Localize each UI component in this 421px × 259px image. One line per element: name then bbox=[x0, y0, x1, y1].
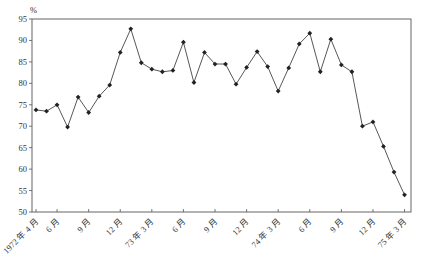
data-point-marker bbox=[402, 192, 407, 197]
data-point-marker bbox=[350, 69, 355, 74]
x-tick-label: 12 月 bbox=[104, 216, 125, 237]
x-tick-label: 73 年 3 月 bbox=[123, 216, 156, 249]
x-tick-label: 75 年 3 月 bbox=[376, 216, 409, 249]
data-point-marker bbox=[34, 108, 39, 113]
x-tick-label: 9 月 bbox=[75, 216, 93, 234]
data-point-marker bbox=[360, 124, 365, 129]
data-series bbox=[34, 26, 407, 197]
line-chart: 50556065707580859095 1972 年 4 月6 月9 月12 … bbox=[0, 0, 421, 259]
data-point-marker bbox=[371, 120, 376, 125]
data-point-marker bbox=[234, 82, 239, 87]
series-line bbox=[36, 29, 405, 195]
data-point-marker bbox=[76, 95, 81, 100]
y-tick-label: 50 bbox=[19, 207, 28, 217]
data-point-marker bbox=[328, 37, 333, 42]
x-tick-label: 74 年 3 月 bbox=[249, 216, 282, 249]
x-tick-label: 6 月 bbox=[296, 216, 314, 234]
data-point-marker bbox=[170, 68, 175, 73]
data-point-marker bbox=[149, 67, 154, 72]
y-tick-label: 90 bbox=[19, 35, 28, 45]
data-point-marker bbox=[339, 62, 344, 67]
y-tick-label: 85 bbox=[19, 57, 28, 67]
x-tick-label: 9 月 bbox=[201, 216, 219, 234]
data-point-marker bbox=[139, 60, 144, 65]
data-point-marker bbox=[160, 69, 165, 74]
y-unit-label: % bbox=[30, 5, 37, 15]
y-tick-label: 60 bbox=[19, 164, 28, 174]
data-point-marker bbox=[392, 170, 397, 175]
data-point-marker bbox=[55, 102, 60, 107]
data-point-marker bbox=[286, 65, 291, 70]
x-tick-label: 12 月 bbox=[356, 216, 377, 237]
x-tick-label: 1972 年 4 月 bbox=[1, 216, 40, 255]
data-point-marker bbox=[192, 80, 197, 85]
data-point-marker bbox=[276, 89, 281, 94]
x-axis: 1972 年 4 月6 月9 月12 月73 年 3 月6 月9 月12 月74… bbox=[1, 209, 409, 256]
data-point-marker bbox=[244, 65, 249, 70]
data-point-marker bbox=[118, 50, 123, 55]
data-point-marker bbox=[318, 69, 323, 74]
x-tick-label: 6 月 bbox=[170, 216, 188, 234]
y-axis: 50556065707580859095 bbox=[19, 14, 33, 217]
data-point-marker bbox=[181, 40, 186, 45]
data-point-marker bbox=[223, 62, 228, 67]
x-tick-label: 9 月 bbox=[328, 216, 346, 234]
y-tick-label: 95 bbox=[19, 14, 28, 24]
y-tick-label: 65 bbox=[19, 143, 28, 153]
x-tick-label: 6 月 bbox=[44, 216, 62, 234]
y-tick-label: 55 bbox=[19, 186, 28, 196]
y-tick-label: 75 bbox=[19, 100, 28, 110]
data-point-marker bbox=[86, 110, 91, 115]
data-point-marker bbox=[128, 26, 133, 31]
data-point-marker bbox=[44, 109, 49, 114]
x-tick-label: 12 月 bbox=[230, 216, 251, 237]
plot-frame bbox=[32, 19, 411, 212]
y-tick-label: 70 bbox=[19, 121, 28, 131]
plot-border bbox=[32, 19, 411, 212]
y-tick-label: 80 bbox=[19, 78, 28, 88]
data-point-marker bbox=[65, 125, 70, 130]
data-point-marker bbox=[381, 144, 386, 149]
